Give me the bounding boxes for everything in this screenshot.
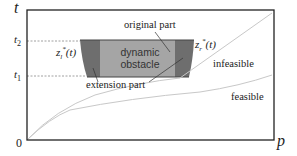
original-part-label: original part — [124, 20, 176, 31]
extension-part-label: extension part — [86, 80, 145, 91]
origin-label: 0 — [16, 137, 22, 149]
extension-part-left — [80, 40, 100, 77]
z-left-label: zl*(t) — [56, 46, 76, 61]
x-axis-label: p — [277, 133, 285, 149]
tick-t2: t2 — [14, 34, 21, 48]
feasible-label: feasible — [231, 92, 264, 103]
extension-part-right — [175, 40, 194, 77]
infeasible-label: infeasible — [213, 59, 254, 70]
obstacle-line-1: dynamic — [108, 46, 172, 58]
feasible-trajectory — [28, 75, 272, 139]
tick-t1: t1 — [14, 69, 21, 83]
z-right-label: zr*(t) — [195, 38, 216, 53]
y-axis-label: t — [14, 0, 18, 16]
obstacle-line-2: obstacle — [108, 58, 172, 70]
dynamic-obstacle-label: dynamic obstacle — [108, 46, 172, 70]
